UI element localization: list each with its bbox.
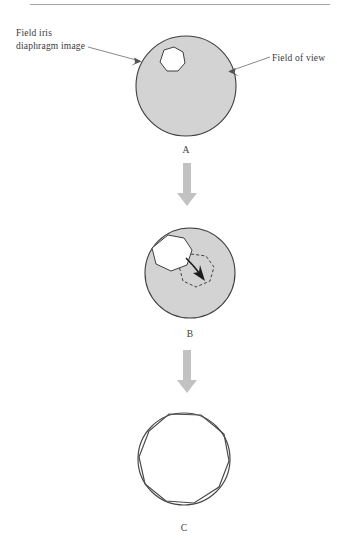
- arrow-a-to-b-glyph: [177, 163, 197, 206]
- panel-b: B: [145, 228, 235, 339]
- field-of-view-label: Field of view: [272, 53, 325, 63]
- panel-a-letter: A: [182, 145, 189, 155]
- arrow-a-to-b: [177, 163, 197, 206]
- panel-a-field-of-view-leader: [230, 57, 270, 71]
- panel-a-field-of-view-disc: [136, 36, 236, 136]
- figure-root: Field iris diaphragm image Field of view…: [0, 0, 337, 555]
- panel-c-letter: C: [181, 523, 188, 533]
- field-iris-label-line2: diaphragm image: [16, 41, 85, 51]
- panel-b-letter: B: [187, 329, 194, 339]
- panel-a-field-iris-polygon: [160, 47, 185, 71]
- arrow-b-to-c-glyph: [177, 350, 197, 393]
- panel-c-field-iris-polygon: [139, 414, 229, 503]
- panel-b-field-of-view-disc: [145, 228, 235, 318]
- figure-canvas: Field iris diaphragm image Field of view…: [0, 0, 337, 555]
- panel-a-field-iris-leader: [88, 47, 140, 61]
- panel-c: C: [138, 413, 230, 533]
- panel-a: Field iris diaphragm image Field of view…: [16, 28, 325, 155]
- arrow-b-to-c: [177, 350, 197, 393]
- field-iris-label-line1: Field iris: [16, 28, 52, 38]
